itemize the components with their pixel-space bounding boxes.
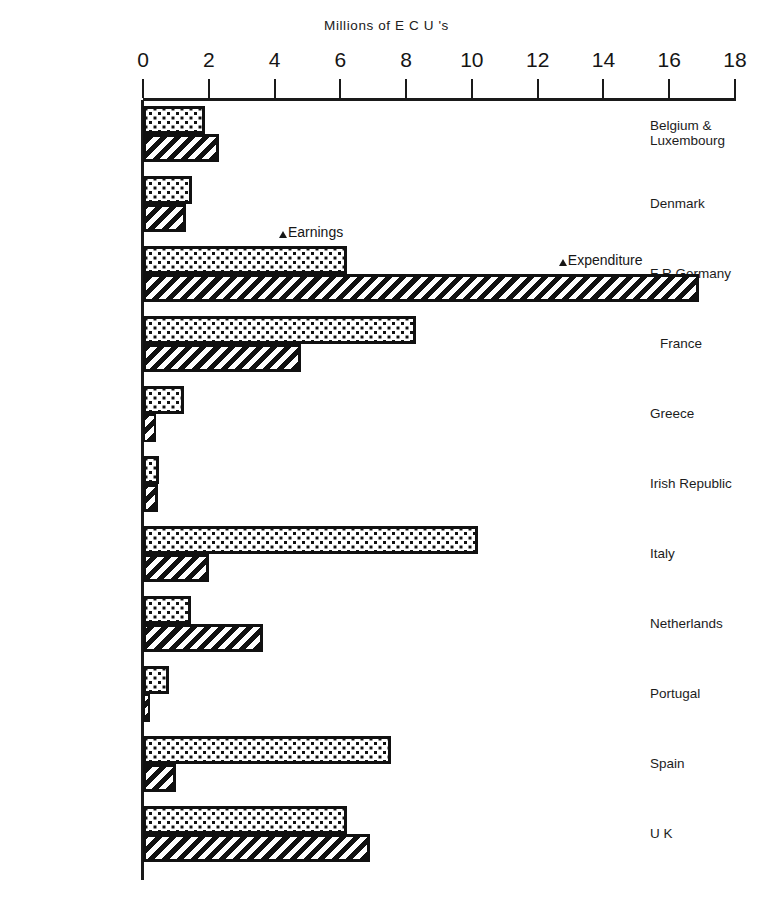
bar-earnings	[143, 176, 192, 204]
bar-expenditure	[143, 414, 156, 442]
category-label: Denmark	[638, 196, 773, 211]
x-axis-line	[143, 98, 736, 101]
bar-earnings	[143, 106, 205, 134]
x-axis-tick-label: 6	[334, 48, 346, 72]
category-label: Greece	[638, 406, 773, 421]
bar-earnings	[143, 666, 169, 694]
category-label: Belgium & Luxembourg	[638, 118, 773, 148]
category-label: Italy	[638, 546, 773, 561]
annotation-expenditure: Expenditure	[559, 252, 643, 268]
chart-title: Millions of E C U 's	[0, 18, 773, 33]
bar-earnings	[143, 386, 184, 414]
bar-earnings	[143, 736, 391, 764]
category-label: France	[638, 336, 773, 351]
bar-expenditure	[143, 554, 209, 582]
x-axis-tick	[405, 79, 407, 98]
bar-earnings	[143, 316, 416, 344]
bar-earnings	[143, 596, 191, 624]
bar-expenditure	[143, 694, 150, 722]
x-axis-tick-label: 2	[203, 48, 215, 72]
bar-earnings	[143, 526, 478, 554]
bar-chart: Millions of E C U 's 024681012141618 Bel…	[0, 0, 773, 907]
x-axis-tick-label: 8	[400, 48, 412, 72]
category-label: Spain	[638, 756, 773, 771]
triangle-up-icon	[279, 231, 287, 238]
x-axis-tick	[339, 79, 341, 98]
category-label: Portugal	[638, 686, 773, 701]
triangle-up-icon	[559, 259, 567, 266]
x-axis-tick-label: 18	[723, 48, 746, 72]
x-axis-tick-label: 12	[526, 48, 549, 72]
annotation-expenditure-label: Expenditure	[568, 252, 643, 268]
x-axis-tick	[668, 79, 670, 98]
x-axis-tick	[274, 79, 276, 98]
x-axis-tick-label: 4	[269, 48, 281, 72]
bar-expenditure	[143, 274, 699, 302]
x-axis-tick-label: 16	[658, 48, 681, 72]
bar-expenditure	[143, 834, 370, 862]
bar-earnings	[143, 456, 159, 484]
bar-expenditure	[143, 624, 263, 652]
x-axis-tick-label: 0	[137, 48, 149, 72]
x-axis-tick	[537, 79, 539, 98]
bar-expenditure	[143, 484, 158, 512]
bar-expenditure	[143, 204, 186, 232]
x-axis-tick	[142, 79, 144, 98]
bar-expenditure	[143, 764, 176, 792]
bar-expenditure	[143, 134, 219, 162]
category-label: U K	[638, 826, 773, 841]
x-axis-tick-label: 14	[592, 48, 615, 72]
annotation-earnings-label: Earnings	[288, 224, 343, 240]
x-axis-tick	[602, 79, 604, 98]
bar-earnings	[143, 806, 347, 834]
annotation-earnings: Earnings	[279, 224, 343, 240]
x-axis-tick	[471, 79, 473, 98]
x-axis-tick-label: 10	[460, 48, 483, 72]
bar-earnings	[143, 246, 347, 274]
bar-expenditure	[143, 344, 301, 372]
category-label: Irish Republic	[638, 476, 773, 491]
x-axis-tick	[734, 79, 736, 98]
x-axis-tick	[208, 79, 210, 98]
category-label: Netherlands	[638, 616, 773, 631]
